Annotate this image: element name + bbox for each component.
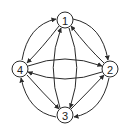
node-label: 3 — [62, 110, 68, 122]
node-label: 1 — [62, 15, 68, 27]
node-label: 2 — [107, 64, 113, 76]
edge-4-to-1 — [22, 19, 56, 60]
edge-1-to-2 — [73, 19, 108, 60]
edge-2-to-4 — [28, 72, 102, 79]
node-3: 3 — [57, 107, 73, 123]
node-label: 4 — [17, 64, 23, 76]
directed-graph: 1234 — [0, 0, 130, 131]
node-1: 1 — [57, 12, 73, 28]
edge-3-to-1 — [53, 28, 61, 108]
edges — [21, 19, 109, 117]
node-2: 2 — [102, 61, 118, 77]
nodes: 1234 — [12, 12, 118, 123]
edge-2-to-3 — [74, 78, 109, 117]
edge-1-to-3 — [69, 28, 77, 108]
edge-4-to-2 — [28, 59, 102, 66]
edge-3-to-4 — [21, 78, 56, 117]
node-4: 4 — [12, 61, 28, 77]
